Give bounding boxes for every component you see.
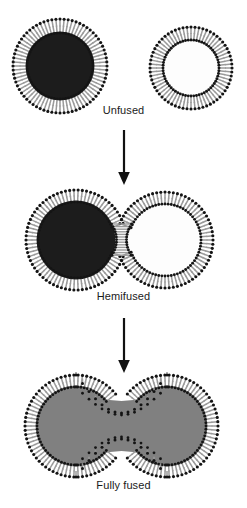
- stage-label-fully-fused: Fully fused: [0, 479, 247, 492]
- membrane-fusion-diagram: Unfused Hemifused Fully fused: [0, 0, 247, 508]
- down-arrow-icon: [114, 318, 134, 374]
- stage-label-unfused: Unfused: [0, 104, 247, 117]
- vesicle-dark-unfused: [11, 17, 108, 114]
- vesicle-dark-hemifused: [24, 188, 124, 291]
- fused-lumen: [36, 386, 208, 467]
- stage-hemifused: [0, 188, 247, 292]
- fully-fused-vesicle-illustration: [0, 372, 247, 484]
- arrow-hemifused-to-fused: [0, 318, 247, 374]
- vesicle-light-hemifused: [118, 190, 214, 289]
- arrow-unfused-to-hemifused: [0, 130, 247, 186]
- vesicle-light-unfused: [148, 25, 233, 110]
- stage-fully-fused: [0, 372, 247, 480]
- hemifused-vesicles-illustration: [0, 188, 247, 294]
- down-arrow-icon: [114, 130, 134, 186]
- stage-label-hemifused: Hemifused: [0, 290, 247, 303]
